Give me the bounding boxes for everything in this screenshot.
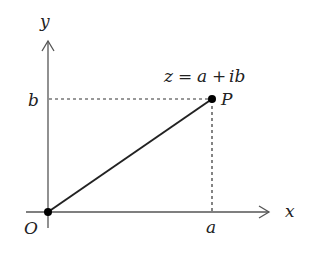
origin-point: [44, 208, 52, 216]
equation-a: a: [197, 66, 207, 86]
x-axis-label: x: [285, 201, 295, 221]
origin-label: O: [24, 218, 38, 238]
point-p: [208, 95, 216, 103]
segment-op: [48, 99, 212, 212]
equation-ib: ib: [229, 66, 245, 86]
equation-plus: +: [212, 66, 226, 86]
imag-part-label: b: [28, 90, 39, 110]
point-label: P: [220, 89, 233, 109]
y-axis-label: y: [39, 11, 50, 31]
complex-plane-diagram: y x b O a P z = a + ib: [0, 0, 317, 263]
equation-z: z: [163, 66, 174, 86]
real-part-label: a: [206, 217, 216, 237]
equation: z = a + ib: [163, 66, 245, 86]
equation-equals: =: [178, 66, 192, 86]
